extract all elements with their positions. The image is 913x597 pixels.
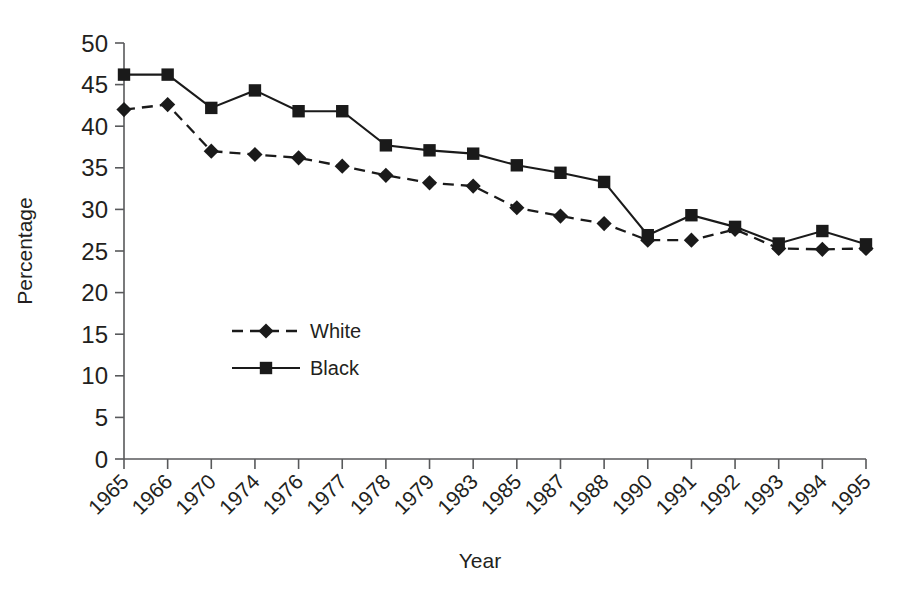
- data-point-marker-diamond: [509, 200, 524, 215]
- x-tick-label: 1985: [476, 470, 525, 519]
- data-point-marker-square: [118, 68, 130, 80]
- series-white: [116, 97, 873, 257]
- data-point-marker-square: [249, 84, 261, 96]
- y-axis-title: Percentage: [13, 197, 36, 304]
- y-tick-label: 5: [95, 404, 108, 431]
- data-point-marker-diamond: [815, 242, 830, 257]
- x-tick-label: 1990: [607, 470, 656, 519]
- series-line: [124, 105, 866, 250]
- x-tick-label: 1991: [651, 470, 700, 519]
- y-tick-label: 15: [81, 321, 108, 348]
- y-tick-label: 10: [81, 362, 108, 389]
- data-point-marker-diamond: [335, 159, 350, 174]
- legend-marker-square: [260, 362, 272, 374]
- data-point-marker-square: [423, 144, 435, 156]
- data-point-marker-square: [685, 209, 697, 221]
- data-point-marker-square: [467, 147, 479, 159]
- series-line: [124, 75, 866, 245]
- chart-series: [116, 68, 873, 257]
- data-point-marker-square: [161, 68, 173, 80]
- x-tick-label: 1966: [127, 470, 176, 519]
- data-point-marker-square: [336, 105, 348, 117]
- data-point-marker-diamond: [597, 216, 612, 231]
- chart-axes: [124, 43, 866, 459]
- legend-label: White: [310, 320, 361, 342]
- data-point-marker-square: [860, 238, 872, 250]
- chart-container: 0510152025303540455019651966197019741976…: [0, 0, 913, 597]
- y-tick-label: 50: [81, 30, 108, 57]
- legend-label: Black: [310, 357, 360, 379]
- x-tick-label: 1995: [826, 470, 875, 519]
- data-point-marker-diamond: [553, 208, 568, 223]
- data-point-marker-diamond: [378, 168, 393, 183]
- line-chart: 0510152025303540455019651966197019741976…: [0, 0, 913, 597]
- data-point-marker-square: [598, 176, 610, 188]
- x-tick-label: 1974: [214, 469, 264, 519]
- y-tick-label: 25: [81, 238, 108, 265]
- x-axis-title: Year: [459, 549, 501, 572]
- legend-entry-black: Black: [232, 357, 360, 379]
- x-tick-label: 1994: [782, 469, 832, 519]
- y-tick-label: 35: [81, 154, 108, 181]
- x-tick-label: 1970: [171, 470, 220, 519]
- data-point-marker-square: [554, 167, 566, 179]
- legend-entry-white: White: [232, 320, 361, 342]
- data-point-marker-square: [511, 159, 523, 171]
- y-tick-label: 0: [95, 446, 108, 473]
- x-tick-label: 1978: [345, 470, 394, 519]
- data-point-marker-diamond: [684, 233, 699, 248]
- x-tick-label: 1979: [389, 470, 438, 519]
- y-tick-label: 20: [81, 279, 108, 306]
- y-tick-label: 30: [81, 196, 108, 223]
- data-point-marker-diamond: [291, 150, 306, 165]
- x-tick-label: 1988: [564, 470, 613, 519]
- data-point-marker-square: [642, 229, 654, 241]
- series-black: [118, 68, 872, 250]
- legend-marker-diamond: [258, 323, 273, 338]
- chart-legend: WhiteBlack: [232, 320, 361, 379]
- x-tick-label: 1965: [84, 470, 133, 519]
- data-point-marker-square: [380, 139, 392, 151]
- x-tick-label: 1987: [520, 470, 569, 519]
- data-point-marker-square: [205, 102, 217, 114]
- y-tick-label: 40: [81, 113, 108, 140]
- y-tick-label: 45: [81, 71, 108, 98]
- x-tick-label: 1992: [695, 470, 744, 519]
- x-tick-label: 1983: [433, 470, 482, 519]
- data-point-marker-diamond: [466, 179, 481, 194]
- x-tick-label: 1977: [302, 470, 351, 519]
- data-point-marker-square: [773, 237, 785, 249]
- data-point-marker-square: [292, 105, 304, 117]
- data-point-marker-square: [816, 225, 828, 237]
- y-axis-ticks: 05101520253035404550: [81, 30, 124, 473]
- x-tick-label: 1993: [738, 470, 787, 519]
- data-point-marker-diamond: [116, 102, 131, 117]
- data-point-marker-square: [729, 221, 741, 233]
- x-tick-label: 1976: [258, 470, 307, 519]
- x-axis-ticks: 1965196619701974197619771978197919831985…: [84, 459, 875, 519]
- data-point-marker-diamond: [160, 97, 175, 112]
- data-point-marker-diamond: [247, 147, 262, 162]
- data-point-marker-diamond: [422, 175, 437, 190]
